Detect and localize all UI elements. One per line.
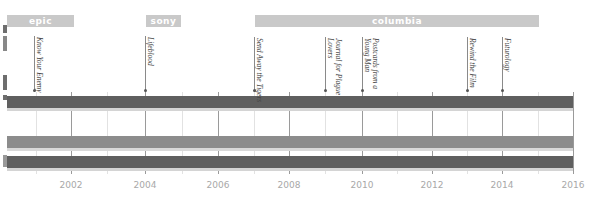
film-title: Lifeblood: [146, 37, 154, 66]
x-tick-label: 2014: [491, 180, 514, 190]
label-band-sony: sony: [146, 15, 181, 27]
film-title: Futurology: [503, 38, 511, 71]
film-title: Know Your Enemy: [35, 37, 43, 93]
left-marker: [3, 75, 7, 90]
film-marker-dot: [361, 89, 364, 92]
gridline-2016: [573, 92, 574, 174]
x-tick-label: 2004: [134, 180, 157, 190]
timeline-track-1: [7, 96, 573, 111]
x-tick-label: 2016: [562, 180, 585, 190]
timeline-track-2: [7, 136, 573, 151]
x-tick-label: 2012: [421, 180, 444, 190]
x-tick-label: 2006: [207, 180, 230, 190]
x-tick-label: 2002: [60, 180, 83, 190]
film-title: Rewind the Film: [468, 38, 476, 88]
timeline-chart: epic sony columbia Know Your Enemy Lifeb…: [0, 0, 600, 199]
x-tick-label: 2010: [351, 180, 374, 190]
film-title: Postcards from a Young Man: [363, 38, 379, 89]
label-band-columbia: columbia: [255, 15, 539, 27]
film-title: Journal for Plague Lovers: [326, 38, 342, 95]
x-tick-label: 2008: [278, 180, 301, 190]
left-marker: [3, 36, 7, 51]
film-marker-dot: [501, 89, 504, 92]
label-band-epic: epic: [7, 15, 74, 27]
film-marker-dot: [144, 89, 147, 92]
film-title: Send Away the Tigers: [255, 38, 263, 102]
film-marker-dot: [466, 89, 469, 92]
timeline-track-3: [7, 156, 573, 171]
